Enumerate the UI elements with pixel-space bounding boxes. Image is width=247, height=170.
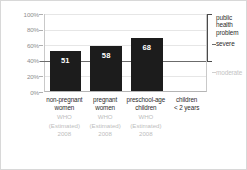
y-axis-tickmark-80 <box>39 30 43 31</box>
x-axis-labels: non-pregnant women WHO (Estimated) 2008 … <box>44 96 207 156</box>
gridline-60 <box>45 45 206 46</box>
y-axis-tick-label-60: 60% <box>9 43 39 49</box>
annotation-severe: severe <box>216 40 235 48</box>
bar-value-label: 51 <box>50 56 82 65</box>
x-category-non-pregnant-women: non-pregnant women WHO (Estimated) 2008 <box>44 96 85 156</box>
gridline-100 <box>45 14 206 15</box>
bar-pregnant-women: 58 <box>90 46 122 91</box>
annotation-public-health-problem: public health problem <box>216 14 238 37</box>
annotation-moderate: moderate <box>216 69 242 77</box>
x-category-line2: children <box>127 104 166 112</box>
bar-value-label: 68 <box>131 43 163 52</box>
y-axis-tick-label-100: 100% <box>9 12 39 18</box>
y-axis-tick-label-0: 0% <box>9 90 39 96</box>
x-category-preschool-age-children: preschool-age children WHO (Estimated) 2… <box>126 96 167 156</box>
gridline-80 <box>45 30 206 31</box>
x-category-line1: preschool-age <box>127 96 166 104</box>
x-category-source: WHO <box>45 113 84 121</box>
x-category-year: 2008 <box>45 130 84 138</box>
x-category-source: WHO <box>127 113 166 121</box>
x-category-year: 2008 <box>86 130 125 138</box>
x-category-estimated: (Estimated) <box>45 122 84 130</box>
x-category-line2: < 2 years <box>167 104 206 112</box>
x-category-estimated: (Estimated) <box>86 122 125 130</box>
annotation-column: public health problem severe moderate <box>207 14 247 94</box>
public-health-problem-bracket <box>207 14 212 62</box>
annotation-line1: public <box>216 14 238 22</box>
bar-non-pregnant-women: 51 <box>50 51 82 91</box>
x-category-line1: non-pregnant <box>45 96 84 104</box>
y-axis-tick-label-20: 20% <box>9 74 39 80</box>
y-axis-tickmark-20 <box>39 76 43 77</box>
plot-area: 51 58 68 <box>44 14 207 92</box>
x-category-year: 2008 <box>127 130 166 138</box>
x-category-line1: children <box>167 96 206 104</box>
annotation-line3: problem <box>216 29 238 37</box>
y-axis-tickmark-0 <box>39 92 43 93</box>
x-category-estimated: (Estimated) <box>127 122 166 130</box>
x-category-pregnant-women: pregnant women WHO (Estimated) 2008 <box>85 96 126 156</box>
annotation-line2: health <box>216 21 238 29</box>
x-category-line2: women <box>45 104 84 112</box>
chart-container: 100% 80% 60% 40% 20% 0% 51 58 68 non-pre… <box>0 0 247 170</box>
bar-value-label: 58 <box>90 51 122 60</box>
x-category-children-under-2-years: children < 2 years <box>166 96 207 156</box>
bar-preschool-age-children: 68 <box>131 38 163 91</box>
y-axis-tickmark-60 <box>39 45 43 46</box>
x-category-source: WHO <box>86 113 125 121</box>
y-axis-tick-label-80: 80% <box>9 27 39 33</box>
x-category-line1: pregnant <box>86 96 125 104</box>
x-category-line2: women <box>86 104 125 112</box>
y-axis-tickmark-100 <box>39 14 43 15</box>
y-axis-tick-label-40: 40% <box>9 58 39 64</box>
